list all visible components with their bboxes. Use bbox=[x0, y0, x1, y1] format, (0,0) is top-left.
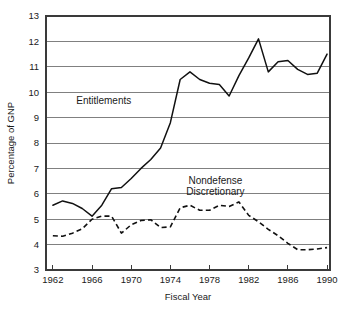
y-tick-label-7: 7 bbox=[34, 163, 39, 174]
y-tick-label-4: 4 bbox=[34, 239, 39, 250]
y-axis-title: Percentage of GNP bbox=[5, 102, 16, 184]
x-tick-label-1970: 1970 bbox=[121, 274, 142, 285]
nondefense-label-line2: Discretionary bbox=[186, 186, 244, 197]
y-tick-label-12: 12 bbox=[28, 36, 39, 47]
entitlements-label: Entitlements bbox=[76, 95, 131, 106]
x-tick-label-1966: 1966 bbox=[81, 274, 102, 285]
y-tick-label-13: 13 bbox=[28, 10, 39, 21]
x-tick-label-1990: 1990 bbox=[316, 274, 337, 285]
x-tick-label-1982: 1982 bbox=[238, 274, 259, 285]
x-tick-label-1974: 1974 bbox=[160, 274, 181, 285]
chart-background bbox=[0, 0, 353, 311]
y-tick-label-8: 8 bbox=[34, 137, 39, 148]
y-tick-label-6: 6 bbox=[34, 188, 39, 199]
gnp-spending-line-chart: 345678910111213 196219661970197419781982… bbox=[0, 0, 353, 311]
x-axis-title: Fiscal Year bbox=[165, 291, 211, 302]
x-tick-label-1978: 1978 bbox=[199, 274, 220, 285]
y-tick-label-11: 11 bbox=[29, 61, 39, 72]
chart-figure: 345678910111213 196219661970197419781982… bbox=[0, 0, 353, 311]
y-tick-label-3: 3 bbox=[34, 264, 39, 275]
y-tick-label-5: 5 bbox=[34, 214, 39, 225]
y-tick-label-10: 10 bbox=[28, 87, 39, 98]
x-tick-label-1962: 1962 bbox=[42, 274, 63, 285]
y-tick-label-9: 9 bbox=[34, 112, 39, 123]
x-tick-label-1986: 1986 bbox=[277, 274, 298, 285]
nondefense-label-line1: Nondefense bbox=[188, 175, 242, 186]
